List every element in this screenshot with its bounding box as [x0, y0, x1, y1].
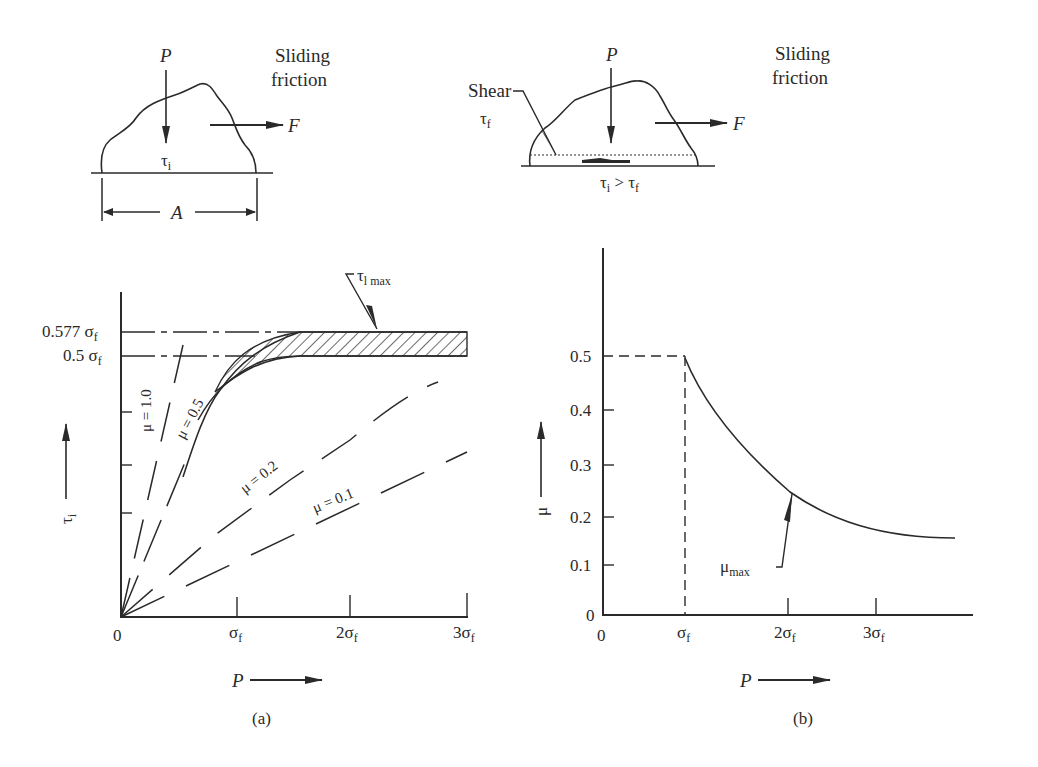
sketch-a-title-line2: friction	[271, 69, 327, 90]
tau-max-label: τl max	[357, 266, 391, 288]
y-tick-02: 0.2	[570, 508, 591, 527]
mu-max-label: μmax	[720, 557, 750, 579]
y-ref-0577-label: 0.577 σf	[42, 322, 98, 344]
x-tick-2: 2σf	[774, 623, 796, 645]
mu-0.5-line	[121, 455, 188, 617]
x-tick-2: 2σf	[336, 623, 358, 645]
y-tick-03: 0.3	[570, 456, 591, 475]
chart-a: τl max 0.577 σf 0.5 σf μ = 1.0 μ = 0.5 μ…	[42, 266, 475, 728]
sketch-b-title-line2: friction	[772, 67, 828, 88]
x-axis-label: P	[739, 670, 752, 691]
shear-stress-label: τf	[480, 109, 491, 131]
y-tick-0: 0	[586, 606, 595, 625]
mu-0.5-label: μ = 0.5	[173, 396, 207, 441]
mu-0.2-line	[121, 382, 438, 617]
mu-1.0-label: μ = 1.0	[138, 389, 154, 432]
panel-b-label: (b)	[793, 709, 813, 728]
mu-0.2-label: μ = 0.2	[237, 457, 281, 496]
chart-b: μmax 0.5 0.4 0.3 0.2 0.1 0 0 σf 2σf 3σf …	[532, 248, 973, 728]
x-tick-1: σf	[677, 623, 690, 645]
force-label: F	[287, 115, 300, 136]
y-tick-04: 0.4	[570, 401, 592, 420]
y-axis-label: τi	[57, 513, 79, 524]
stress-label: τi	[161, 151, 172, 173]
load-label: P	[159, 45, 172, 66]
shear-leader-line	[513, 91, 556, 155]
mu-max-curve	[685, 358, 955, 538]
y-tick-01: 0.1	[570, 556, 591, 575]
x-tick-3: 3σf	[453, 623, 475, 645]
sketch-a: P F τi A Sliding friction	[91, 45, 330, 223]
sketch-b-title-line1: Sliding	[775, 43, 830, 64]
shear-wedge-icon	[582, 158, 630, 163]
particle-outline	[101, 84, 256, 173]
x-tick-0: 0	[597, 626, 606, 645]
force-label: F	[732, 113, 745, 134]
x-tick-0: 0	[113, 626, 122, 645]
sketch-b: P F Shear τf τi > τf Sliding friction	[468, 43, 830, 195]
sketch-a-title-line1: Sliding	[275, 45, 330, 66]
load-label: P	[605, 44, 618, 65]
tau-max-band	[215, 332, 467, 392]
y-ref-05-label: 0.5 σf	[63, 346, 102, 368]
figure-canvas: P F τi A Sliding friction P F Shear τf τ	[0, 0, 1038, 767]
condition-label: τi > τf	[600, 173, 639, 195]
area-label: A	[169, 202, 183, 223]
x-tick-1: σf	[229, 623, 242, 645]
mu-1.0-line	[121, 345, 183, 617]
x-axis-label: P	[231, 670, 244, 691]
y-tick-05: 0.5	[570, 347, 591, 366]
y-axis-label: μ	[532, 507, 551, 516]
shear-label: Shear	[468, 80, 512, 101]
panel-a-label: (a)	[252, 709, 271, 728]
x-tick-3: 3σf	[863, 623, 885, 645]
mu-0.1-label: μ = 0.1	[310, 485, 356, 516]
